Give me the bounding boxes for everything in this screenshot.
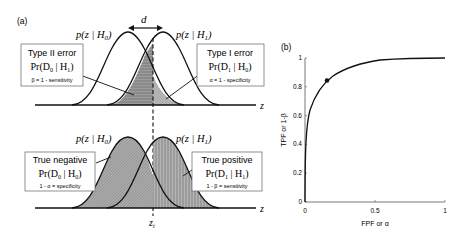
true-positive-box: True positive Pr(D1 | H1) 1 - β = sensit… — [192, 152, 262, 191]
true-positive-title: True positive — [201, 155, 252, 165]
type1-error-region — [153, 76, 183, 105]
h1-label-bottom: p(z | H1) — [175, 133, 212, 146]
panel-a-label: (a) — [17, 16, 28, 26]
true-negative-note: 1 - α = specificity — [39, 183, 80, 189]
h0-label-bottom: p(z | H0) — [75, 133, 112, 146]
ytick-0.4: 0.4 — [293, 140, 302, 147]
true-negative-prob: Pr(D0 | H0) — [38, 168, 81, 180]
ytick-0.8: 0.8 — [293, 83, 302, 90]
type1-pointer — [166, 74, 200, 99]
type1-error-box: Type I error Pr(D1 | H0) α = 1 - specifi… — [197, 44, 264, 86]
ytick-0.6: 0.6 — [293, 112, 302, 119]
xtick-1: 1 — [443, 207, 447, 214]
z-axis-bottom-label: z — [259, 203, 264, 214]
xtick-0: 0 — [303, 207, 307, 214]
d-arrow-right-head — [157, 25, 163, 31]
roc-x-ticklabels: 0 0.5 1 — [303, 207, 447, 214]
true-positive-note: 1 - β = sensitivity — [206, 183, 247, 189]
roc-ylabel: TPF or 1-β — [280, 113, 288, 147]
figure: (a) z d p(z | H0) p(z | H1) Type II erro… — [0, 0, 464, 237]
true-positive-prob: Pr(D1 | H1) — [205, 168, 248, 180]
true-negative-title: True negative — [33, 155, 88, 165]
z-axis-top-label: z — [259, 100, 264, 111]
true-negative-box: True negative Pr(D0 | H0) 1 - α = specif… — [25, 152, 95, 191]
roc-operating-point — [325, 78, 330, 83]
ytick-0: 0 — [298, 198, 302, 205]
type1-prob: Pr(D1 | H0) — [208, 61, 251, 73]
h1-label-top: p(z | H1) — [175, 29, 212, 42]
type1-note: α = 1 - specificity — [209, 77, 250, 83]
ytick-1: 1 — [298, 54, 302, 61]
panel-b-label: (b) — [281, 42, 292, 52]
type2-error-box: Type II error Pr(D0 | H1) β = 1 - sensit… — [21, 44, 83, 86]
ytick-0.2: 0.2 — [293, 169, 302, 176]
xtick-0.5: 0.5 — [370, 207, 379, 214]
h0-label-top: p(z | H0) — [75, 29, 112, 42]
separation-label: d — [141, 13, 147, 25]
threshold-label: zt — [148, 217, 155, 229]
type2-title: Type II error — [28, 48, 77, 58]
roc-y-ticklabels: 0 0.2 0.4 0.6 0.8 1 — [293, 54, 302, 205]
type2-note: β = 1 - sensitivity — [31, 77, 72, 83]
type2-prob: Pr(D0 | H1) — [30, 61, 73, 73]
d-arrow-left-head — [128, 25, 134, 31]
roc-xlabel: FPF or α — [361, 220, 388, 227]
type1-title: Type I error — [207, 48, 253, 58]
